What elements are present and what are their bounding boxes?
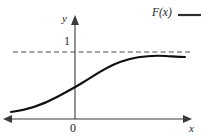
cdf-figure: y x 1 0 F(x) (0, 0, 201, 140)
x-axis-label: x (189, 123, 194, 134)
figure-canvas (0, 0, 201, 140)
y-axis-up-arrow-icon (71, 15, 79, 25)
y-axis-label: y (62, 13, 67, 24)
origin-label-zero: 0 (70, 122, 76, 134)
x-axis-left-arrow-icon (3, 115, 12, 123)
cdf-curve-path (11, 56, 185, 112)
legend-label-fx: F(x) (152, 7, 172, 19)
y-tick-label-one: 1 (64, 35, 70, 47)
